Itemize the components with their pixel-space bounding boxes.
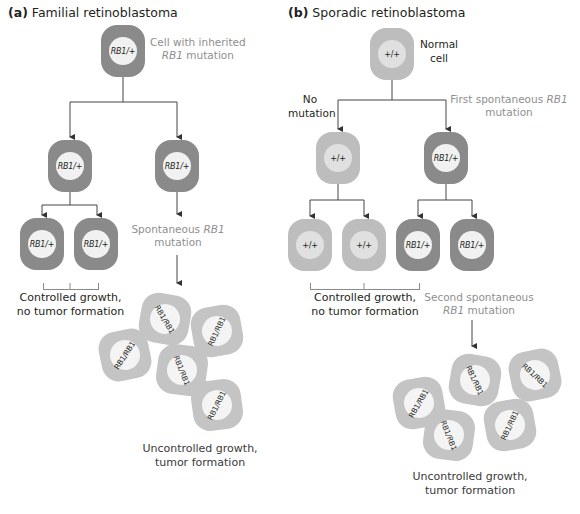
connector-arrows	[0, 0, 580, 514]
